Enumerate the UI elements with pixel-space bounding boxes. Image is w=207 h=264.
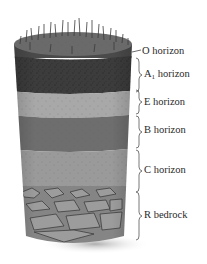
label-a1-horizon: A1 horizon <box>144 68 190 83</box>
label-e-horizon: E horizon <box>144 96 185 108</box>
label-r-bedrock: R bedrock <box>144 209 187 221</box>
e-brace <box>136 90 142 114</box>
c-brace <box>136 150 142 192</box>
label-o-horizon: O horizon <box>142 45 184 57</box>
label-b-horizon: B horizon <box>144 124 186 136</box>
a1-brace <box>136 58 142 92</box>
o-horizon-leader <box>132 50 141 52</box>
label-c-horizon: C horizon <box>144 164 186 176</box>
horizon-braces <box>136 58 142 240</box>
r-brace <box>136 192 142 240</box>
b-brace <box>136 116 142 148</box>
soil-profile-diagram: O horizon A1 horizon E horizon B horizon… <box>0 0 207 264</box>
